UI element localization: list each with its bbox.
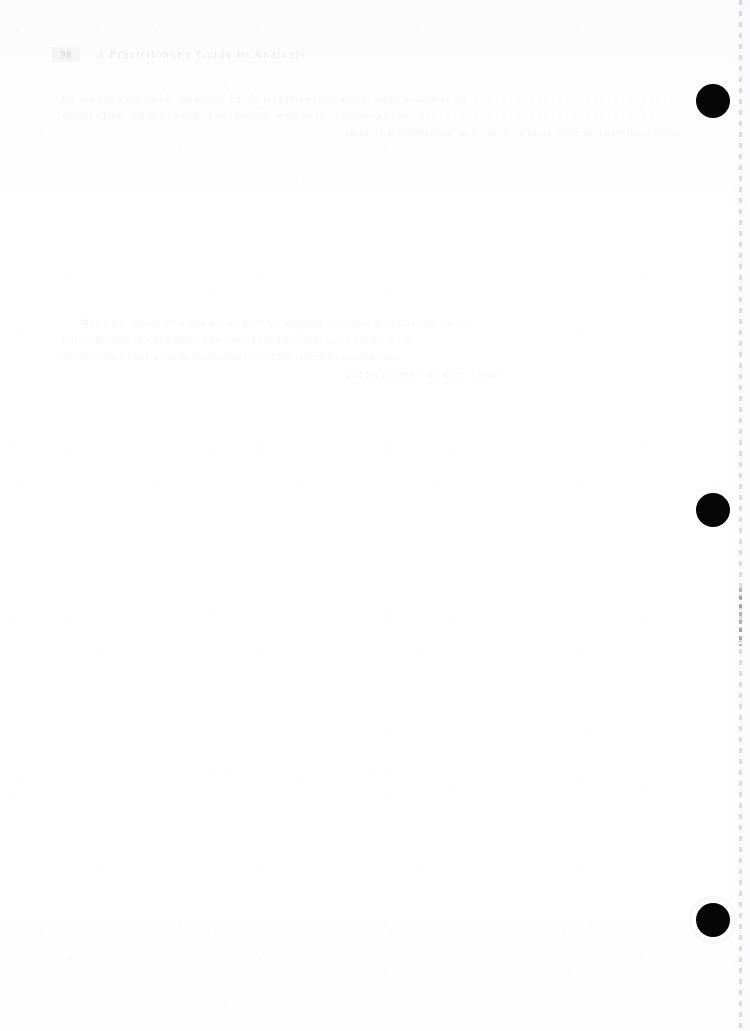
sheet-edge-seam	[739, 0, 742, 1031]
punch-hole-mark-icon	[696, 493, 730, 527]
paragraph-one-line-3: Additional commentary on this point appe…	[346, 128, 680, 137]
paragraph-two-line-1: Where the conditions above are not met, …	[62, 318, 674, 327]
page-number: 98	[52, 47, 80, 62]
paragraph-two-line-2: full, with particular attention given to…	[62, 335, 674, 344]
page-header: 98 A Practitioner's Guide to Analysis	[52, 44, 652, 64]
blank-page-body	[52, 392, 682, 952]
paragraph-one-line-1: the preceding discussion has shown that …	[62, 94, 674, 103]
paragraph-two-line-4: See the summary table for details.	[346, 369, 680, 378]
sheet-edge-seam-dark-segment	[739, 588, 742, 646]
paragraph-one-line-2: sample range, and that no further correc…	[62, 111, 655, 120]
running-head: A Practitioner's Guide to Analysis	[96, 48, 652, 60]
paragraph-two-line-3: chapter, since these account for the maj…	[62, 352, 637, 361]
punch-hole-mark-icon	[696, 84, 730, 118]
paragraph-one: the preceding discussion has shown that …	[62, 94, 680, 145]
paragraph-two: Where the conditions above are not met, …	[62, 318, 680, 386]
scanned-page: 98 A Practitioner's Guide to Analysis th…	[0, 0, 750, 1031]
punch-hole-mark-icon	[696, 903, 730, 937]
page-edge-shadow	[734, 0, 750, 1031]
